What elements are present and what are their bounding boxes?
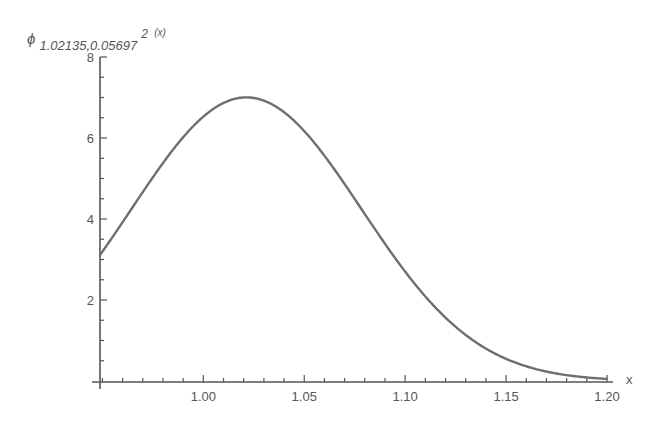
x-tick-label: 1.20 <box>594 389 619 404</box>
y-tick-label: 2 <box>87 293 94 308</box>
y-axis-arg: (x) <box>154 27 166 38</box>
x-tick-label: 1.05 <box>292 389 317 404</box>
pdf-curve <box>100 97 607 379</box>
y-tick-label: 4 <box>87 212 94 227</box>
x-tick-label: 1.15 <box>493 389 518 404</box>
x-axis-title: x <box>626 372 633 387</box>
x-tick-label: 1.10 <box>393 389 418 404</box>
axes <box>92 57 613 389</box>
y-tick-label: 8 <box>87 50 94 65</box>
y-axis-superscript: 2 <box>140 27 148 41</box>
ticks <box>100 57 607 382</box>
y-tick-labels: 2468 <box>87 50 94 308</box>
y-axis-title: ϕ 1.02135,0.05697 2 (x) <box>27 24 166 53</box>
x-tick-labels: 1.001.051.101.151.20 <box>191 389 620 404</box>
y-tick-label: 6 <box>87 131 94 146</box>
svg-text:ϕ 1.02135,0.05697: ϕ 1.02135,0.05697 2 (x) <box>27 24 166 53</box>
chart: ϕ 1.02135,0.05697 2 (x) 1.001.051.101.15… <box>0 0 667 423</box>
x-tick-label: 1.00 <box>191 389 216 404</box>
y-axis-symbol: ϕ <box>27 30 35 47</box>
